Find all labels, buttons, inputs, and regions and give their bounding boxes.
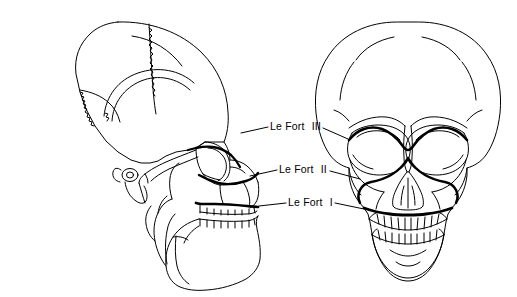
label-le-fort-2-text: Le Fort [279,163,314,175]
leader-line-le-fort-1-lateral [259,203,286,206]
leader-line-le-fort-3 [323,128,348,139]
label-le-fort-1: Le FortI [288,196,333,208]
leader-line-le-fort-3-lateral [241,127,268,133]
label-le-fort-1-text: Le Fort [288,196,323,208]
label-le-fort-1-roman: I [330,196,333,208]
le-fort-diagram: Le FortIII Le FortII Le FortI [0,0,517,297]
label-le-fort-3-roman: III [312,120,321,132]
lateral-skull-view [76,22,261,290]
frontal-skull-view [315,22,500,281]
label-le-fort-2: Le FortII [279,163,327,175]
label-le-fort-3-text: Le Fort [270,120,305,132]
leader-line-le-fort-2 [330,171,360,179]
skull-illustration [0,0,517,297]
label-le-fort-3: Le FortIII [270,120,321,132]
label-le-fort-2-roman: II [321,163,327,175]
